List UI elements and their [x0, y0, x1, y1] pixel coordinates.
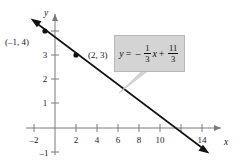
x-tick-label-14: 14 — [198, 135, 208, 145]
equation-lhs: y — [119, 49, 123, 59]
point-marker-minus1-4 — [42, 28, 47, 33]
coordinate-plane-svg: –2 2 4 6 8 10 14 3 2 1 –1 x y — [0, 0, 240, 165]
fraction-one-third-denominator: 3 — [144, 55, 150, 64]
y-tick-label-1: 1 — [43, 98, 48, 108]
x-tick-label-minus2: –2 — [29, 135, 39, 145]
equation-callout-box: y = – 1 3 x + 11 3 — [114, 35, 185, 72]
y-tick-labels-group: 3 2 1 –1 — [39, 50, 49, 158]
fraction-one-third-numerator: 1 — [144, 44, 150, 53]
fraction-eleven-thirds-denominator: 3 — [170, 55, 176, 64]
graph-figure: –2 2 4 6 8 10 14 3 2 1 –1 x y — [0, 0, 240, 165]
equation-expression: y = – 1 3 x + 11 3 — [119, 44, 179, 64]
point-label-minus1-4: (–1, 4) — [5, 37, 29, 47]
point-label-2-3: (2, 3) — [88, 50, 108, 60]
x-axis-label: x — [223, 137, 229, 147]
x-tick-label-2: 2 — [74, 135, 79, 145]
fraction-eleven-thirds-numerator: 11 — [168, 44, 178, 53]
fraction-one-third: 1 3 — [144, 44, 151, 64]
plotted-points-group — [42, 28, 78, 57]
callout-pointer — [119, 71, 148, 93]
y-tick-label-minus1: –1 — [39, 148, 49, 158]
y-tick-label-3: 3 — [43, 50, 48, 60]
fraction-eleven-thirds: 11 3 — [168, 44, 178, 64]
equation-minus-sign: – — [135, 49, 140, 59]
equation-plus-sign: + — [159, 49, 165, 59]
equation-equals: = — [126, 49, 132, 59]
x-tick-label-8: 8 — [137, 135, 142, 145]
x-axis-arrowhead — [214, 125, 221, 131]
y-axis-arrowhead — [52, 14, 58, 21]
point-marker-2-3 — [73, 52, 78, 57]
y-axis-label: y — [43, 8, 49, 18]
x-tick-label-10: 10 — [156, 135, 166, 145]
y-tick-label-2: 2 — [43, 74, 48, 84]
x-tick-label-6: 6 — [116, 135, 121, 145]
equation-variable-x: x — [152, 49, 156, 59]
x-tick-label-4: 4 — [95, 135, 100, 145]
